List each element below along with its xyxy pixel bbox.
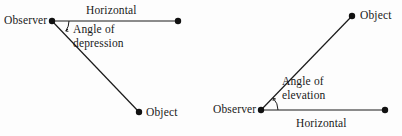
angle-arc-arrowhead-depression: [66, 29, 69, 31]
label-object-elevation: Object: [360, 9, 392, 22]
label-angle-of-elevation-line2: elevation: [282, 89, 326, 101]
diagram-svg: [0, 0, 402, 136]
label-observer-elevation: Observer: [213, 103, 256, 116]
object-point-depression: [136, 109, 142, 115]
label-angle-of-depression-line2: depression: [73, 37, 124, 49]
angle-arc-elevation: [273, 98, 278, 110]
figure-root: Observer Horizontal Angle ofdepression O…: [0, 0, 402, 136]
horizontal-endpoint-depression: [175, 18, 181, 24]
label-angle-of-depression-line1: Angle of: [73, 23, 115, 35]
label-object-depression: Object: [146, 106, 178, 119]
label-angle-of-elevation: Angle ofelevation: [282, 75, 348, 102]
label-observer-depression: Observer: [4, 14, 47, 27]
object-point-elevation: [349, 13, 355, 19]
label-angle-of-elevation-line1: Angle of: [282, 75, 324, 87]
horizontal-endpoint-elevation: [382, 107, 388, 113]
label-angle-of-depression: Angle ofdepression: [73, 23, 143, 50]
label-horizontal-depression: Horizontal: [86, 4, 137, 17]
observer-point-elevation: [258, 107, 264, 113]
label-horizontal-elevation: Horizontal: [296, 117, 347, 130]
observer-point-depression: [49, 18, 55, 24]
